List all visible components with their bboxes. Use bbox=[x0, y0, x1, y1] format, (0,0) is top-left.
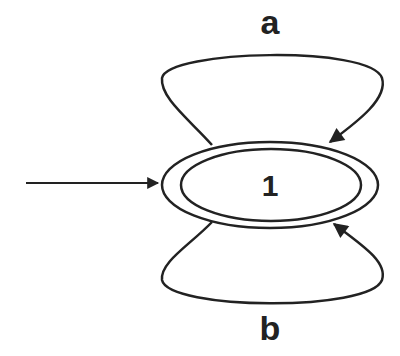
transition-label-a: a bbox=[261, 3, 281, 41]
automaton-diagram: 1 a b bbox=[0, 0, 400, 356]
state-1[interactable]: 1 bbox=[162, 142, 378, 228]
self-loop-a bbox=[162, 55, 383, 145]
state-label: 1 bbox=[262, 169, 279, 202]
transition-label-b: b bbox=[260, 309, 281, 347]
self-loop-b bbox=[162, 222, 383, 303]
